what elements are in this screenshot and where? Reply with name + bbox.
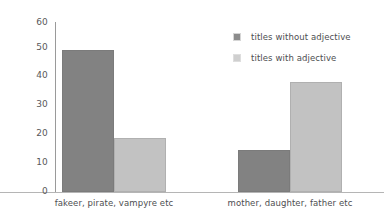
legend: titles without adjective titles with adj…	[233, 28, 351, 70]
bar-series0-cat1	[238, 150, 290, 193]
legend-swatch-icon	[233, 54, 241, 62]
category-label-0: fakeer, pirate, vampyre etc	[34, 198, 194, 208]
bar-series0-cat0	[62, 50, 114, 192]
bar-series1-cat1	[290, 82, 342, 193]
legend-swatch-icon	[233, 33, 241, 41]
category-label-1: mother, daughter, father etc	[210, 198, 370, 208]
bar-chart: 60 50 40 30 20 10 0 fakeer, pirate, vamp…	[0, 0, 384, 224]
legend-item-1: titles with adjective	[233, 49, 351, 66]
legend-label-0: titles without adjective	[251, 32, 351, 42]
legend-label-1: titles with adjective	[251, 53, 336, 63]
bar-series1-cat0	[114, 138, 166, 192]
legend-item-0: titles without adjective	[233, 28, 351, 45]
